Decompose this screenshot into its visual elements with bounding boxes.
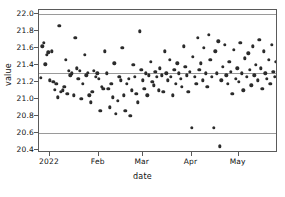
- data-point: [162, 90, 165, 93]
- data-point: [179, 77, 182, 80]
- data-point: [149, 60, 152, 63]
- data-point: [114, 112, 117, 115]
- data-point: [168, 58, 171, 61]
- data-point: [190, 126, 193, 129]
- data-point: [204, 72, 207, 75]
- scatter-chart-figure: 20.420.620.821.021.221.421.621.822.0 202…: [0, 0, 285, 197]
- x-axis-tick-label: 2022: [39, 157, 59, 166]
- x-axis-tick-label: Apr: [184, 157, 198, 166]
- data-point: [89, 101, 92, 104]
- data-point: [127, 77, 130, 80]
- y-axis-label: value: [4, 45, 13, 105]
- data-point: [108, 106, 111, 109]
- data-point: [185, 73, 188, 76]
- data-point: [136, 101, 139, 104]
- data-point: [213, 50, 216, 53]
- data-point: [224, 73, 227, 76]
- data-point: [146, 94, 149, 97]
- data-point: [173, 68, 176, 71]
- data-point: [239, 41, 242, 44]
- data-point: [105, 72, 108, 75]
- data-point: [155, 75, 158, 78]
- data-point: [58, 24, 61, 27]
- data-point: [212, 126, 215, 129]
- x-axis-tick-mark: [238, 152, 239, 156]
- data-point: [193, 75, 196, 78]
- data-point: [110, 82, 113, 85]
- data-point: [130, 89, 133, 92]
- data-point: [138, 29, 141, 32]
- data-point: [259, 67, 262, 70]
- data-point: [121, 46, 124, 49]
- data-point: [103, 50, 106, 53]
- data-point: [221, 65, 224, 68]
- data-point: [246, 51, 249, 54]
- data-point: [196, 36, 199, 39]
- data-point: [177, 72, 180, 75]
- data-point: [182, 45, 185, 48]
- y-axis-tick-label: 22.0: [17, 9, 35, 18]
- data-point: [83, 53, 86, 56]
- data-point: [97, 77, 100, 80]
- data-point: [262, 50, 265, 53]
- data-point: [223, 43, 226, 46]
- data-point: [116, 99, 119, 102]
- data-point: [81, 82, 84, 85]
- data-point: [169, 75, 172, 78]
- data-point: [99, 109, 102, 112]
- data-point: [45, 53, 48, 56]
- y-axis-tick-label: 21.8: [17, 26, 35, 35]
- data-point: [264, 72, 267, 75]
- data-point: [171, 94, 174, 97]
- x-axis-tick-label: Feb: [91, 157, 105, 166]
- data-point: [273, 75, 276, 78]
- data-point: [163, 50, 166, 53]
- data-point: [166, 79, 169, 82]
- data-point: [250, 84, 253, 87]
- x-axis-tick-mark: [49, 152, 50, 156]
- data-point: [125, 82, 128, 85]
- data-point: [267, 58, 270, 61]
- data-point: [206, 85, 209, 88]
- y-axis-tick-label: 21.2: [17, 76, 35, 85]
- y-axis-tick-label: 20.4: [17, 144, 35, 153]
- data-point: [210, 75, 213, 78]
- data-point: [176, 62, 179, 65]
- data-point: [243, 57, 246, 60]
- data-point: [42, 41, 45, 44]
- data-point: [198, 68, 201, 71]
- data-point: [39, 76, 42, 79]
- data-point: [240, 72, 243, 75]
- data-point: [72, 94, 75, 97]
- data-point: [220, 79, 223, 82]
- data-point: [195, 82, 198, 85]
- y-axis-tick-label: 21.0: [17, 93, 35, 102]
- data-point: [158, 67, 161, 70]
- data-point: [199, 62, 202, 65]
- data-point: [245, 75, 248, 78]
- data-point: [248, 68, 251, 71]
- y-axis-tick-label: 20.6: [17, 127, 35, 136]
- data-point: [237, 80, 240, 83]
- y-axis-tick-label: 20.8: [17, 110, 35, 119]
- data-point: [124, 109, 127, 112]
- data-point: [217, 40, 220, 43]
- data-point: [202, 46, 205, 49]
- data-point: [191, 55, 194, 58]
- data-point: [50, 50, 53, 53]
- data-point: [180, 85, 183, 88]
- data-point: [77, 77, 80, 80]
- y-axis-tick-label: 21.6: [17, 43, 35, 52]
- data-point: [174, 82, 177, 85]
- data-point: [128, 114, 131, 117]
- data-point: [209, 58, 212, 61]
- data-point: [187, 90, 190, 93]
- data-point: [226, 82, 229, 85]
- data-point: [160, 73, 163, 76]
- data-point: [152, 84, 155, 87]
- data-point: [251, 45, 254, 48]
- data-point: [44, 62, 47, 65]
- data-point: [276, 80, 277, 83]
- data-point: [143, 87, 146, 90]
- data-point: [61, 89, 64, 92]
